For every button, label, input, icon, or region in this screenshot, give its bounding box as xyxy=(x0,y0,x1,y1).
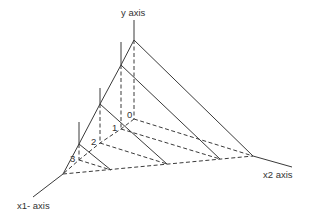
x1-axis-label: x1- axis xyxy=(17,200,50,211)
dashed-x2-line-1 xyxy=(121,129,220,159)
x2-axis-line xyxy=(253,156,292,167)
point-label-3: 3 xyxy=(70,153,75,164)
x1-axis-line xyxy=(33,174,63,197)
point-label-0: 0 xyxy=(127,109,132,120)
point-label-2: 2 xyxy=(91,136,96,147)
axis-diagram: y axis x1- axis x2 axis 0 1 2 3 xyxy=(0,0,312,218)
diagonal-level-1 xyxy=(121,65,220,159)
right-edge xyxy=(134,40,253,156)
dashed-bottom-edge xyxy=(63,156,253,174)
dashed-x2-line-3 xyxy=(79,160,111,170)
dashed-x2-line-2 xyxy=(100,143,167,164)
x2-axis-label: x2 axis xyxy=(263,169,293,180)
point-label-1: 1 xyxy=(112,122,117,133)
y-axis-label: y axis xyxy=(121,7,146,18)
diagonal-level-3 xyxy=(79,144,111,170)
